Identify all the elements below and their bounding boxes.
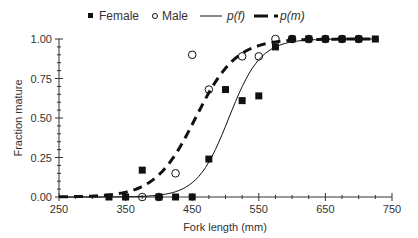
female-point — [172, 194, 179, 201]
female-point — [372, 36, 379, 43]
x-tick-label: 450 — [183, 203, 201, 215]
x-tick-label: 650 — [316, 203, 334, 215]
male-point — [238, 53, 246, 61]
male-point — [355, 35, 363, 43]
y-tick-label: 0.25 — [31, 152, 52, 164]
male-point — [172, 170, 180, 178]
pf-curve — [59, 39, 375, 197]
y-tick-label: 0.50 — [31, 112, 52, 124]
legend-female-label: Female — [99, 9, 139, 23]
male-point — [322, 35, 330, 43]
female-point — [239, 97, 246, 104]
female-point — [222, 86, 229, 93]
y-tick-label: 1.00 — [31, 33, 52, 45]
legend: Female Male p(f) p(m) — [88, 9, 305, 23]
female-point — [139, 167, 146, 174]
pm-curve — [59, 39, 375, 197]
legend-female-marker-icon — [88, 13, 93, 18]
x-axis-label: Fork length (mm) — [183, 221, 267, 233]
legend-male-label: Male — [162, 9, 188, 23]
female-point — [272, 43, 279, 50]
female-point — [105, 194, 112, 201]
x-tick-label: 550 — [250, 203, 268, 215]
female-point — [205, 156, 212, 163]
x-tick-label: 350 — [116, 203, 134, 215]
y-tick-label: 0.00 — [31, 191, 52, 203]
male-point — [288, 35, 296, 43]
legend-male-marker-icon — [153, 14, 158, 19]
female-point — [189, 194, 196, 201]
legend-pm-label: p(m) — [279, 9, 305, 23]
female-point — [255, 92, 262, 99]
x-tick-label: 750 — [383, 203, 401, 215]
male-points — [138, 35, 362, 201]
y-tick-label: 0.75 — [31, 73, 52, 85]
male-point — [188, 51, 196, 59]
legend-pf-label: p(f) — [226, 9, 245, 23]
male-point — [305, 35, 313, 43]
y-axis-label: Fraction mature — [12, 79, 24, 156]
y-axis: 0.000.250.500.751.00 — [31, 33, 63, 203]
maturity-chart: Female Male p(f) p(m) 0.000.250.500.751.… — [0, 0, 418, 238]
x-axis: 250350450550650750 — [50, 193, 401, 215]
x-tick-label: 250 — [50, 203, 68, 215]
female-point — [122, 194, 129, 201]
male-point — [338, 35, 346, 43]
